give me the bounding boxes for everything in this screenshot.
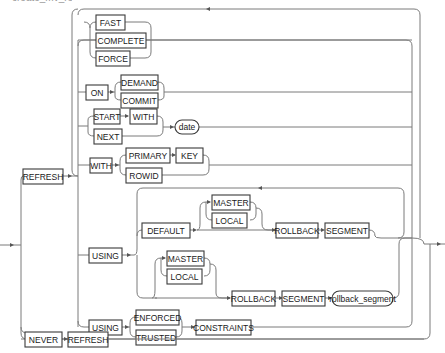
svg-text:DEMAND: DEMAND <box>121 78 158 88</box>
svg-text:PRIMARY: PRIMARY <box>129 151 168 161</box>
param-date: date <box>175 120 199 134</box>
svg-text:SEGMENT: SEGMENT <box>282 294 324 304</box>
svg-text:ON: ON <box>91 88 104 98</box>
keyword-refresh: REFRESH <box>23 169 64 184</box>
svg-text:ENFORCED: ENFORCED <box>134 313 182 323</box>
keyword-commit: COMMIT <box>121 93 158 108</box>
param-rollback-segment: rollback_segment <box>329 291 396 306</box>
keyword-default: DEFAULT <box>142 223 190 238</box>
svg-text:ROLLBACK: ROLLBACK <box>274 226 320 236</box>
svg-text:SEGMENT: SEGMENT <box>326 226 368 236</box>
keyword-with-1: WITH <box>130 109 157 124</box>
keyword-primary: PRIMARY <box>126 148 170 163</box>
svg-text:DEFAULT: DEFAULT <box>147 226 185 236</box>
svg-text:ROLLBACK: ROLLBACK <box>231 294 277 304</box>
svg-text:COMMIT: COMMIT <box>122 96 156 106</box>
arrow-icon <box>10 243 14 247</box>
svg-text:KEY: KEY <box>181 151 198 161</box>
svg-text:LOCAL: LOCAL <box>216 216 244 226</box>
keyword-master-2: MASTER <box>167 251 204 266</box>
svg-text:USING: USING <box>92 323 119 333</box>
keyword-rowid: ROWID <box>126 168 162 183</box>
keyword-start: START <box>93 109 120 124</box>
keyword-next: NEXT <box>94 129 122 144</box>
svg-text:LOCAL: LOCAL <box>171 272 199 282</box>
keyword-local-2: LOCAL <box>167 269 202 284</box>
keyword-rollback-2: ROLLBACK <box>231 291 277 306</box>
keyword-key: KEY <box>176 148 203 163</box>
svg-text:date: date <box>179 122 196 132</box>
keyword-local-1: LOCAL <box>212 213 247 228</box>
svg-text:FORCE: FORCE <box>98 54 128 64</box>
keyword-never: NEVER <box>25 332 62 347</box>
keyword-demand: DEMAND <box>121 75 158 90</box>
svg-text:NEVER: NEVER <box>29 335 58 345</box>
svg-text:MASTER: MASTER <box>213 198 248 208</box>
svg-text:TRUSTED: TRUSTED <box>136 333 176 343</box>
keyword-using-1: USING <box>89 248 122 263</box>
arrow-icon <box>437 242 441 246</box>
svg-text:START: START <box>93 112 120 122</box>
railroad-diagram: REFRESH FAST COMPLETE FORCE ON DEMAND CO… <box>0 0 445 353</box>
svg-text:NEXT: NEXT <box>97 132 120 142</box>
keyword-segment-1: SEGMENT <box>325 223 369 238</box>
keyword-trusted: TRUSTED <box>136 330 176 345</box>
keyword-complete: COMPLETE <box>96 33 146 48</box>
keyword-enforced: ENFORCED <box>134 310 182 325</box>
keyword-rollback-1: ROLLBACK <box>274 223 320 238</box>
svg-text:rollback_segment: rollback_segment <box>329 294 396 304</box>
keyword-refresh-2: REFRESH <box>68 332 109 347</box>
svg-text:WITH: WITH <box>133 112 155 122</box>
svg-text:ROWID: ROWID <box>129 171 158 181</box>
svg-text:USING: USING <box>92 251 119 261</box>
svg-text:WITH: WITH <box>90 161 112 171</box>
keyword-constraints: CONSTRAINTS <box>193 320 254 335</box>
keyword-segment-2: SEGMENT <box>282 291 325 306</box>
keyword-fast: FAST <box>96 15 125 30</box>
svg-text:REFRESH: REFRESH <box>68 335 109 345</box>
svg-text:CONSTRAINTS: CONSTRAINTS <box>193 323 254 333</box>
svg-text:FAST: FAST <box>100 18 121 28</box>
keyword-on: ON <box>86 85 108 100</box>
keyword-force: FORCE <box>96 51 130 66</box>
svg-text:MASTER: MASTER <box>168 254 203 264</box>
svg-text:COMPLETE: COMPLETE <box>98 36 145 46</box>
keyword-master-1: MASTER <box>212 195 250 210</box>
svg-text:REFRESH: REFRESH <box>23 172 64 182</box>
keyword-with-2: WITH <box>90 158 112 173</box>
